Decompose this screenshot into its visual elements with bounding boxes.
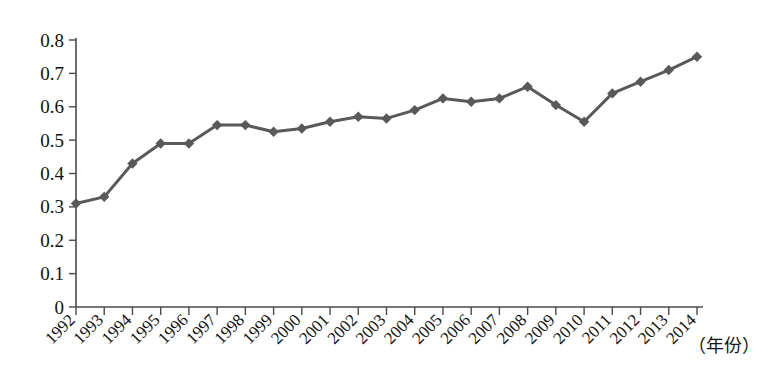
x-axis-tick-label: 1993 — [70, 310, 107, 347]
chart-figure: 00.10.20.30.40.50.60.70.8199219931994199… — [0, 0, 775, 387]
x-axis-tick-label: 2007 — [465, 310, 503, 348]
data-point-marker — [466, 97, 476, 107]
x-axis-tick-label: 1995 — [126, 310, 163, 347]
x-axis-tick-label: 2011 — [578, 310, 615, 347]
data-point-marker — [297, 123, 307, 133]
y-axis-tick-label: 0.8 — [40, 30, 64, 51]
data-point-marker — [240, 120, 250, 130]
data-point-marker — [438, 93, 448, 103]
x-axis-tick-label: 1992 — [41, 310, 78, 347]
y-axis-tick-label: 0.1 — [40, 263, 64, 284]
x-axis-tick-label: 1997 — [182, 310, 220, 348]
data-point-marker — [381, 113, 391, 123]
x-axis-tick-label: 2010 — [549, 310, 586, 347]
x-axis-tick-label: 2003 — [352, 310, 389, 347]
line-chart-canvas: 00.10.20.30.40.50.60.70.8199219931994199… — [0, 0, 775, 387]
data-point-marker — [325, 117, 335, 127]
data-point-marker — [664, 65, 674, 75]
x-axis-tick-label: 2005 — [408, 310, 445, 347]
x-axis-tick-label: 1994 — [98, 310, 136, 348]
y-axis-tick-label: 0.5 — [40, 130, 64, 151]
y-axis-tick-label: 0.7 — [40, 63, 64, 84]
y-axis-tick-label: 0.2 — [40, 230, 64, 251]
x-axis-tick-label: 2001 — [295, 310, 332, 347]
x-axis-tick-label: 2000 — [267, 310, 304, 347]
x-axis-tick-label: 2012 — [606, 310, 643, 347]
y-axis-tick-label: 0.6 — [40, 96, 64, 117]
data-point-marker — [494, 93, 504, 103]
x-axis-tick-label: 2009 — [521, 310, 558, 347]
data-point-marker — [353, 112, 363, 122]
x-axis-tick-label: 1998 — [211, 310, 248, 347]
x-axis-tick-label: 2006 — [437, 310, 474, 347]
y-axis-tick-label: 0.4 — [40, 163, 64, 184]
x-axis-tick-label: 2004 — [380, 310, 418, 348]
x-axis-tick-label: 1996 — [154, 310, 191, 347]
y-axis-tick-label: 0.3 — [40, 196, 64, 217]
data-series-line — [76, 57, 697, 204]
x-axis-tick-label: 2002 — [324, 310, 361, 347]
data-point-marker — [692, 51, 702, 61]
data-point-marker — [410, 105, 420, 115]
x-axis-title: （年份） — [688, 331, 760, 357]
data-point-marker — [635, 77, 645, 87]
x-axis-tick-label: 2008 — [493, 310, 530, 347]
x-axis-tick-label: 2013 — [634, 310, 671, 347]
x-axis-tick-label: 1999 — [239, 310, 276, 347]
data-point-marker — [268, 127, 278, 137]
